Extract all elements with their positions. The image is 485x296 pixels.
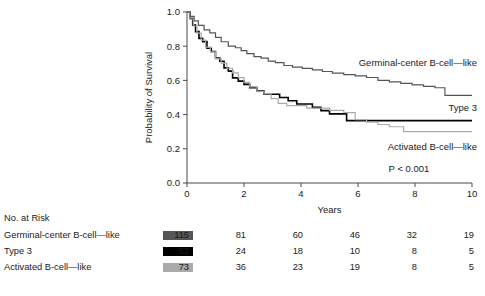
- x-axis-tick-label: 6: [355, 188, 360, 199]
- risk-count-cell: 60: [261, 228, 303, 243]
- risk-count-cell: 19: [318, 260, 360, 275]
- curve-label-abc: Activated B-cell—like: [388, 141, 477, 152]
- y-axis-tick-label: 1.0: [167, 6, 180, 17]
- risk-count-cell: 81: [204, 228, 246, 243]
- risk-row-label: Activated B-cell—like: [4, 260, 91, 275]
- risk-count-cell: 46: [318, 228, 360, 243]
- risk-count-cell: 24: [204, 244, 246, 259]
- risk-row-label: Germinal-center B-cell—like: [4, 228, 120, 243]
- curve-label-gcb: Germinal-center B-cell—like: [359, 57, 477, 68]
- y-axis-tick-label: 0.6: [167, 75, 180, 86]
- risk-count-cell: 73: [147, 260, 189, 275]
- x-axis-tick-label: 10: [467, 188, 478, 199]
- number-at-risk-table: No. at Risk Germinal-center B-cell—like1…: [0, 211, 485, 296]
- risk-count-cell: 36: [204, 260, 246, 275]
- y-axis-tick-label: 0.4: [167, 109, 180, 120]
- risk-count-cell: 18: [261, 244, 303, 259]
- risk-count-cell: 8: [375, 244, 417, 259]
- risk-count-cell: 52: [147, 244, 189, 259]
- x-axis-tick-label: 4: [298, 188, 303, 199]
- risk-count-cell: 19: [432, 228, 474, 243]
- y-axis-title: Probability of Survival: [143, 52, 154, 143]
- risk-table-row: Germinal-center B-cell—like1158160463219: [0, 228, 485, 243]
- risk-table-header: No. at Risk: [4, 213, 49, 223]
- risk-row-label: Type 3: [4, 244, 32, 259]
- risk-count-cell: 8: [375, 260, 417, 275]
- km-plot-svg: 0.00.20.40.60.81.00246810Probability of …: [0, 0, 485, 215]
- curve-label-type3: Type 3: [448, 102, 477, 113]
- y-axis-tick-label: 0.0: [167, 177, 180, 188]
- risk-count-cell: 10: [318, 244, 360, 259]
- risk-count-cell: 5: [432, 244, 474, 259]
- x-axis-tick-label: 8: [412, 188, 417, 199]
- risk-count-cell: 23: [261, 260, 303, 275]
- y-axis-tick-label: 0.2: [167, 143, 180, 154]
- x-axis-tick-label: 2: [241, 188, 246, 199]
- x-axis-tick-label: 0: [184, 188, 189, 199]
- risk-count-cell: 5: [432, 260, 474, 275]
- risk-count-cell: 32: [375, 228, 417, 243]
- risk-table-row: Type 35224181085: [0, 244, 485, 259]
- y-axis-tick-label: 0.8: [167, 41, 180, 52]
- risk-table-row: Activated B-cell—like7336231985: [0, 260, 485, 275]
- km-curve-gcb: [187, 12, 472, 95]
- risk-count-cell: 115: [147, 228, 189, 243]
- p-value-annotation: P < 0.001: [389, 163, 430, 174]
